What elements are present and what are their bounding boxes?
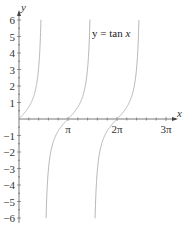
function-label-var: x <box>124 27 130 39</box>
y-tick-label: −6 <box>3 212 15 224</box>
y-tick-label: 5 <box>10 31 16 43</box>
tan-plot: 654321−1−2−3−4−5−6 π2π3π y x y = tan x <box>0 0 184 233</box>
y-axis-label: y <box>20 1 26 13</box>
y-tick-label: −4 <box>3 179 15 191</box>
y-tick-label: 2 <box>10 80 16 92</box>
y-ticks: 654321−1−2−3−4−5−6 <box>3 14 21 224</box>
y-tick-label: 6 <box>10 14 16 26</box>
y-tick-label: −5 <box>3 196 15 208</box>
y-tick-label: 3 <box>10 64 16 76</box>
y-tick-label: 4 <box>10 47 16 59</box>
function-label: y = tan x <box>92 27 130 39</box>
x-axis-label: x <box>176 107 182 119</box>
x-ticks: π2π3π <box>29 117 172 135</box>
function-label-prefix: y = tan <box>92 27 125 39</box>
x-tick-label: π <box>65 123 71 135</box>
x-tick-label: 3π <box>160 123 172 135</box>
x-tick-label: 2π <box>111 123 123 135</box>
tan-branch-curve <box>19 20 41 119</box>
y-tick-label: −3 <box>3 163 15 175</box>
y-tick-label: 1 <box>10 97 16 109</box>
y-tick-label: −1 <box>3 130 15 142</box>
y-tick-label: −2 <box>3 146 15 158</box>
